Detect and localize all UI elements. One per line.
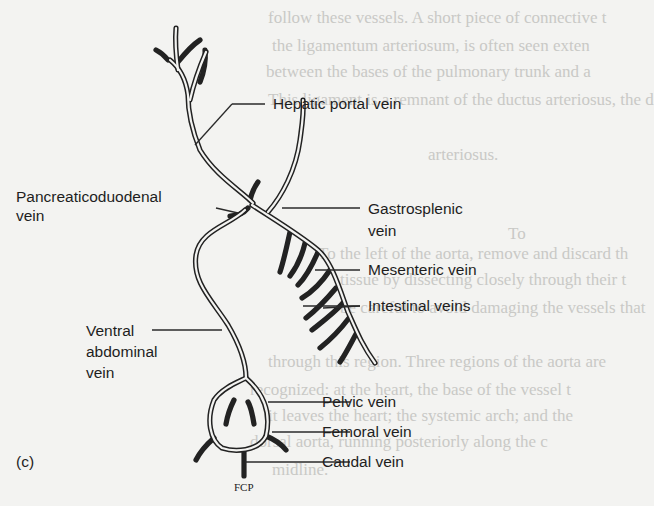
label-femoral-vein: Femoral vein [322, 423, 412, 441]
panel-label: (c) [16, 453, 34, 471]
label-mesenteric-vein: Mesenteric vein [368, 261, 477, 279]
label-ventral-abdominal-vein-line1: Ventral [86, 322, 134, 340]
label-pelvic-vein: Pelvic vein [322, 393, 396, 411]
label-ventral-abdominal-vein-line2: abdominal [86, 343, 158, 361]
artist-initials: FCP [234, 481, 254, 493]
label-intestinal-veins: Intestinal veins [368, 297, 471, 315]
label-hepatic-portal-vein: Hepatic portal vein [273, 95, 401, 113]
label-ventral-abdominal-vein-line3: vein [86, 364, 114, 382]
label-gastrosplenic-vein-line1: Gastrosplenic [368, 200, 463, 218]
label-pancreaticoduodenal-vein-line1: Pancreaticoduodenal [16, 188, 162, 206]
label-gastrosplenic-vein-line2: vein [368, 222, 396, 240]
label-caudal-vein: Caudal vein [322, 453, 404, 471]
label-pancreaticoduodenal-vein-line2: vein [16, 207, 44, 225]
